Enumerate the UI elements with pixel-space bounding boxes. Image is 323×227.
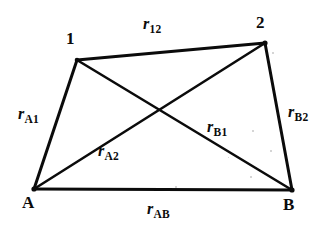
segment-rA1 xyxy=(34,60,77,189)
vertex-node-1 xyxy=(75,58,80,63)
distance-symbol: r xyxy=(18,105,24,122)
distance-subscript: A2 xyxy=(105,150,119,162)
vertex-label-A: A xyxy=(22,194,35,211)
vertex-label-B: B xyxy=(283,196,295,213)
distance-subscript: 12 xyxy=(150,23,162,35)
distance-symbol: r xyxy=(207,118,213,135)
distance-symbol: r xyxy=(147,200,153,217)
vertex-node-B xyxy=(289,187,294,192)
distance-subscript: B1 xyxy=(214,126,228,138)
vertex-label-1: 1 xyxy=(66,30,75,47)
scan-speck xyxy=(250,176,252,178)
vertex-label-2: 2 xyxy=(256,14,265,31)
distance-label-rA2: rA2 xyxy=(98,143,119,159)
distance-subscript: AB xyxy=(154,208,170,220)
segment-rAB xyxy=(34,189,292,190)
scan-speck xyxy=(175,186,177,188)
scan-speck xyxy=(228,157,229,158)
diagonals-group xyxy=(34,43,292,190)
distance-label-rAB: rAB xyxy=(147,201,170,217)
scan-speck xyxy=(270,150,272,152)
distance-label-rB2: rB2 xyxy=(288,104,308,120)
segment-r12 xyxy=(77,43,265,60)
scan-speck xyxy=(272,52,274,54)
vertex-node-A xyxy=(31,186,36,191)
distance-subscript: B2 xyxy=(295,111,309,123)
distance-symbol: r xyxy=(98,142,104,159)
vertex-node-2 xyxy=(262,40,267,45)
distance-symbol: r xyxy=(288,103,294,120)
quadrilateral-diagram xyxy=(0,0,323,227)
distance-subscript: A1 xyxy=(25,113,39,125)
scan-speck xyxy=(252,130,254,132)
distance-label-rA1: rA1 xyxy=(18,106,39,122)
figure-container: 1 2 A B r12 rA1 rB2 rAB rA2 rB1 xyxy=(0,0,323,227)
vertex-nodes-group xyxy=(31,40,294,192)
segment-rA2 xyxy=(34,43,265,189)
distance-label-r12: r12 xyxy=(143,16,161,32)
distance-label-rB1: rB1 xyxy=(207,119,227,135)
distance-symbol: r xyxy=(143,15,149,32)
segment-rB1 xyxy=(77,60,292,190)
